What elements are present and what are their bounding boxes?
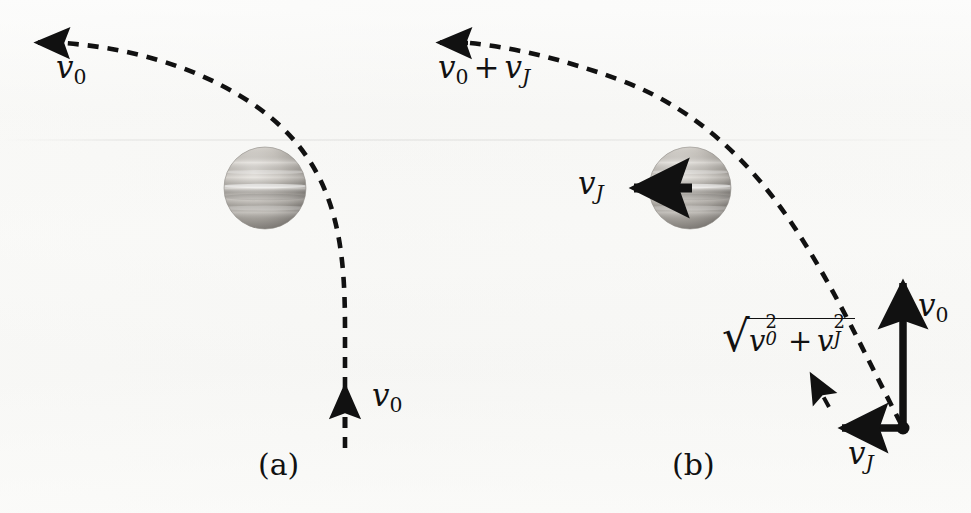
- label-incoming-speed-b: v0+vJ: [438, 52, 530, 88]
- velocity-vector-diagram: [842, 283, 910, 435]
- label-vector-vJ: vJ: [848, 438, 874, 474]
- trajectory-path-a: [64, 43, 345, 448]
- trajectory-path-b: [470, 43, 901, 424]
- label-resultant-speed: √ v20+v2J: [722, 318, 855, 358]
- jupiter-planet-a: [221, 147, 309, 229]
- panel-label-a: (a): [258, 450, 299, 480]
- figure-root: v0 v0 (a) v0+vJ vJ √ v20+v2J v0 vJ (b): [0, 0, 971, 513]
- label-outgoing-speed-a: v0: [372, 380, 403, 416]
- radical-sign-icon: √: [722, 316, 750, 356]
- outgoing-velocity-arrow-b: [812, 376, 829, 407]
- panel-a-graphics: [38, 43, 345, 448]
- panel-b-graphics: [440, 43, 910, 435]
- label-vector-v0: v0: [918, 290, 949, 326]
- label-jupiter-velocity: vJ: [578, 168, 604, 204]
- label-incoming-speed-a: v0: [56, 52, 87, 88]
- vector-origin-dot: [897, 422, 910, 435]
- panel-label-b: (b): [672, 450, 715, 480]
